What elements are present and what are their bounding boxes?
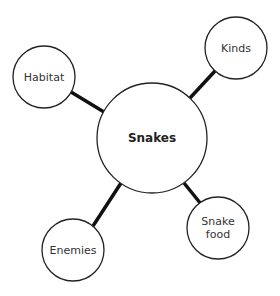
habitat-label: Habitat <box>24 71 64 84</box>
snake-food-line2: food <box>201 228 234 241</box>
connector-enemies <box>93 183 121 226</box>
kinds-label: Kinds <box>221 42 251 55</box>
snake-food-line1: Snake <box>201 215 234 228</box>
snake-food-label: Snake food <box>201 215 234 241</box>
connector-snake-food <box>184 183 201 204</box>
center-label: Snakes <box>128 132 176 145</box>
connector-kinds <box>190 71 215 98</box>
connector-habitat <box>71 92 104 112</box>
enemies-label: Enemies <box>50 244 97 257</box>
